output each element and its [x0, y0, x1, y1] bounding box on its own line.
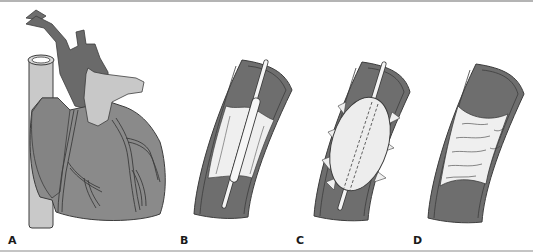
artery-panel-d	[428, 64, 524, 223]
angioplasty-illustration	[0, 2, 533, 252]
figure-canvas: A B C D	[0, 0, 533, 252]
panel-label-d: D	[413, 235, 422, 246]
panel-label-b: B	[180, 235, 188, 246]
panel-label-a: A	[8, 235, 17, 246]
heart-illustration	[26, 10, 165, 228]
artery-panel-c	[314, 62, 410, 221]
panel-label-c: C	[296, 235, 304, 246]
artery-panel-b	[194, 60, 292, 218]
